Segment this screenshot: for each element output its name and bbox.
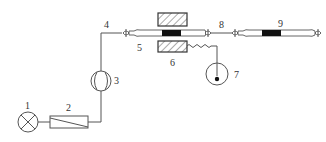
flowmeter-icon [91, 71, 111, 91]
filter-icon [50, 116, 88, 128]
tube-icon [123, 29, 211, 37]
label-7: 7 [234, 69, 239, 80]
label-2: 2 [66, 102, 71, 113]
wire-icon [187, 45, 217, 77]
label-3: 3 [114, 75, 119, 86]
label-9: 9 [278, 18, 283, 29]
label-5: 5 [137, 42, 142, 53]
label-4: 4 [104, 19, 109, 30]
lamp-icon [18, 112, 38, 132]
label-8: 8 [219, 19, 224, 30]
label-1: 1 [25, 100, 30, 111]
tube-icon [232, 29, 321, 37]
schematic-diagram: 1 2 3 4 5 6 7 8 [0, 0, 326, 142]
label-6: 6 [170, 57, 175, 68]
